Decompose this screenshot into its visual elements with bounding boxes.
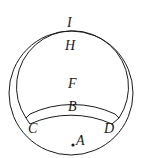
point-A-dot xyxy=(71,143,74,146)
label-F: F xyxy=(67,76,77,91)
diagram-canvas: I H F B C D A xyxy=(0,0,143,158)
label-C: C xyxy=(28,121,38,136)
label-I: I xyxy=(66,15,73,30)
label-D: D xyxy=(103,121,114,136)
label-H: H xyxy=(64,38,76,53)
label-B: B xyxy=(68,99,77,114)
lower-arc xyxy=(30,115,112,124)
label-A: A xyxy=(75,133,85,148)
